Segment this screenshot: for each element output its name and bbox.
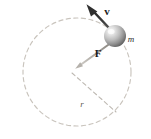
mass-sphere [104, 25, 126, 47]
radius-line [72, 73, 116, 112]
figure-canvas: v F r m [0, 0, 151, 139]
circular-motion-svg: v F r m [0, 0, 151, 139]
force-label: F [95, 47, 102, 59]
mass-label: m [128, 34, 135, 44]
sphere-specular-highlight [108, 29, 115, 34]
force-arrow-shaft [79, 45, 108, 66]
radius-label: r [80, 99, 84, 109]
velocity-label: v [104, 5, 110, 17]
